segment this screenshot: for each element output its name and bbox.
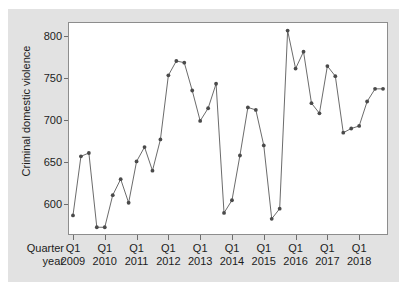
x-axis-row-label-quarter: Quarter <box>10 242 64 255</box>
x-axis-tick-mark <box>137 235 138 240</box>
data-point-marker <box>302 50 306 54</box>
x-axis-tick-mark <box>327 235 328 240</box>
data-point-marker <box>190 89 194 93</box>
data-point-marker <box>238 154 242 158</box>
y-axis-tick-label: 700 <box>44 115 62 125</box>
data-point-marker <box>230 198 234 202</box>
data-point-marker <box>127 201 131 205</box>
data-point-marker <box>206 106 210 110</box>
plot-area <box>68 22 388 235</box>
data-point-marker <box>151 169 155 173</box>
x-axis-row-label-year: year <box>10 255 64 268</box>
x-axis-tick-label: Q12018 <box>339 242 379 268</box>
x-axis-tick-mark <box>232 235 233 240</box>
data-point-marker <box>310 101 314 105</box>
data-point-marker <box>262 143 266 147</box>
data-point-marker <box>222 211 226 215</box>
data-point-marker <box>143 145 147 149</box>
x-axis-tick-label-quarter: Q1 <box>339 242 379 255</box>
series-polyline <box>73 31 383 228</box>
data-point-marker <box>87 151 91 155</box>
data-point-marker <box>95 225 99 229</box>
data-point-marker <box>365 100 369 104</box>
data-point-marker <box>381 87 385 91</box>
data-point-marker <box>278 207 282 211</box>
data-point-marker <box>159 138 163 142</box>
data-series-line <box>69 23 387 234</box>
data-point-marker <box>246 106 250 110</box>
data-point-marker <box>79 154 83 158</box>
x-axis-tick-mark <box>200 235 201 240</box>
data-point-marker <box>318 111 322 115</box>
data-point-marker <box>135 160 139 164</box>
x-axis-tick-mark <box>168 235 169 240</box>
y-axis-tick-label: 800 <box>44 31 62 41</box>
data-point-marker <box>119 177 123 181</box>
x-axis-tick-mark <box>73 235 74 240</box>
data-point-marker <box>333 74 337 78</box>
y-axis-tick-label: 750 <box>44 73 62 83</box>
data-point-marker <box>166 73 170 77</box>
data-point-marker <box>325 64 329 68</box>
data-point-marker <box>286 29 290 33</box>
data-point-marker <box>111 193 115 197</box>
data-point-marker <box>341 131 345 135</box>
data-point-marker <box>103 225 107 229</box>
data-point-marker <box>182 61 186 65</box>
data-point-marker <box>373 87 377 91</box>
chart-figure: Criminal domestic violence 6006507007508… <box>8 9 399 282</box>
plot-inner <box>69 23 387 234</box>
data-point-marker <box>349 127 353 131</box>
data-point-marker <box>174 59 178 63</box>
data-point-marker <box>270 217 274 221</box>
x-axis-tick-mark <box>264 235 265 240</box>
data-point-marker <box>254 108 258 112</box>
data-point-marker <box>71 214 75 218</box>
y-axis-tick-label: 650 <box>44 157 62 167</box>
y-axis-tick-label: 600 <box>44 199 62 209</box>
x-axis-tick-mark <box>105 235 106 240</box>
x-axis-tick-mark <box>359 235 360 240</box>
data-point-marker <box>214 82 218 86</box>
x-axis-tick-label-year: 2018 <box>339 255 379 268</box>
data-point-marker <box>357 124 361 128</box>
data-point-marker <box>198 119 202 123</box>
x-axis-tick-mark <box>296 235 297 240</box>
data-point-marker <box>294 67 298 71</box>
x-axis-row-labels: Quarter year <box>10 242 64 268</box>
